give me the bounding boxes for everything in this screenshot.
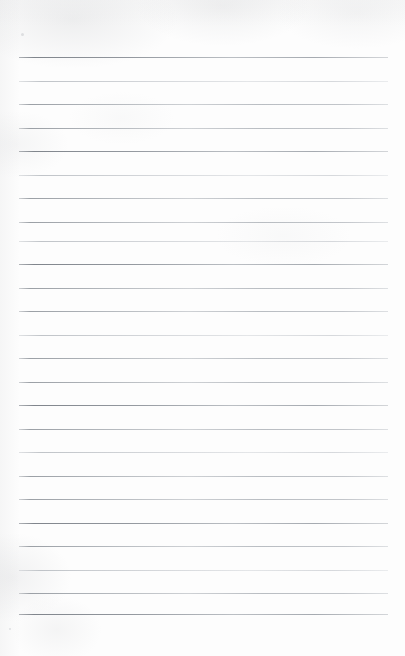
paper-speck	[21, 33, 24, 36]
notepad-page	[0, 0, 405, 656]
writing-area[interactable]	[19, 57, 388, 615]
paper-speck	[9, 628, 11, 630]
